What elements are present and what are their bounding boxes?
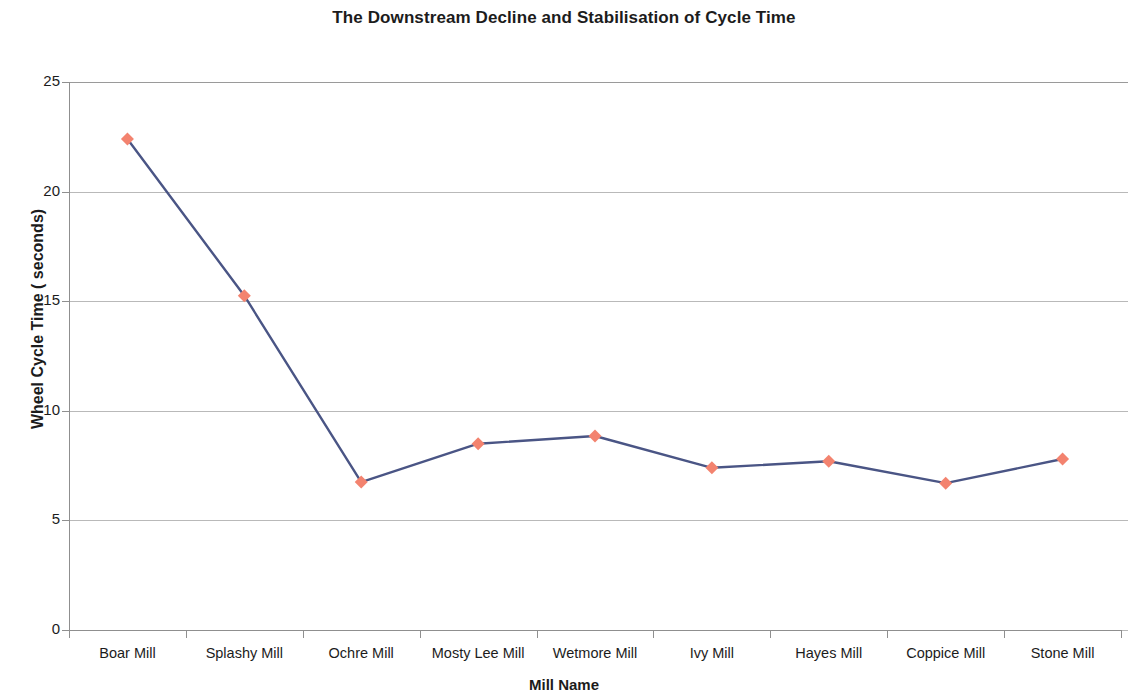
y-tick-mark xyxy=(62,192,69,193)
x-tick-mark xyxy=(653,630,654,638)
x-axis-line xyxy=(69,630,1121,631)
x-tick-mark xyxy=(887,630,888,638)
x-tick-label: Splashy Mill xyxy=(186,645,303,661)
x-tick-mark xyxy=(770,630,771,638)
y-axis-line xyxy=(69,82,70,631)
x-tick-label: Coppice Mill xyxy=(887,645,1004,661)
x-tick-label: Stone Mill xyxy=(1004,645,1121,661)
y-tick-label: 25 xyxy=(20,72,60,89)
y-tick-mark xyxy=(62,630,69,631)
y-tick-mark xyxy=(62,301,69,302)
line-chart: The Downstream Decline and Stabilisation… xyxy=(0,0,1128,698)
y-tick-label: 15 xyxy=(20,291,60,308)
gridline xyxy=(69,520,1128,521)
y-tick-label: 20 xyxy=(20,182,60,199)
x-tick-label: Ochre Mill xyxy=(303,645,420,661)
x-tick-mark xyxy=(1004,630,1005,638)
chart-title: The Downstream Decline and Stabilisation… xyxy=(0,8,1128,28)
gridline xyxy=(69,411,1128,412)
y-tick-label: 10 xyxy=(20,401,60,418)
x-tick-label: Wetmore Mill xyxy=(537,645,654,661)
y-tick-mark xyxy=(62,520,69,521)
plot-area xyxy=(69,82,1128,630)
y-tick-mark xyxy=(62,411,69,412)
y-tick-label: 5 xyxy=(20,510,60,527)
y-tick-label: 0 xyxy=(20,620,60,637)
x-tick-mark xyxy=(1121,630,1122,638)
x-tick-mark xyxy=(537,630,538,638)
x-tick-mark xyxy=(69,630,70,638)
x-axis-title: Mill Name xyxy=(0,676,1128,693)
x-tick-label: Mosty Lee Mill xyxy=(420,645,537,661)
gridline xyxy=(69,301,1128,302)
x-tick-label: Ivy Mill xyxy=(653,645,770,661)
x-tick-label: Boar Mill xyxy=(69,645,186,661)
gridline xyxy=(69,192,1128,193)
x-tick-mark xyxy=(420,630,421,638)
gridline xyxy=(69,82,1128,83)
x-tick-label: Hayes Mill xyxy=(770,645,887,661)
x-tick-mark xyxy=(303,630,304,638)
x-tick-mark xyxy=(186,630,187,638)
y-tick-mark xyxy=(62,82,69,83)
y-axis-title: Wheel Cycle Time ( seconds) xyxy=(29,109,47,529)
